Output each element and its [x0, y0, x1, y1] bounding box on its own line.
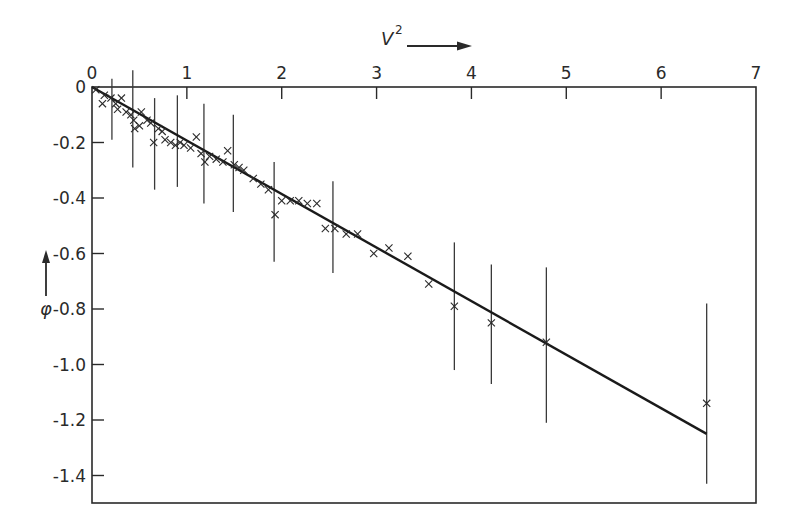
data-point-x-marker-icon: [201, 158, 208, 165]
y-tick-label: -0.2: [53, 133, 86, 153]
data-point-x-marker-icon: [155, 125, 162, 132]
x-tick-label: 3: [371, 63, 382, 83]
y-tick-label: -0.6: [53, 244, 86, 264]
y-tick-label: 0: [75, 77, 86, 97]
x-tick-label: 4: [466, 63, 477, 83]
data-point-x-marker-icon: [271, 211, 278, 218]
y-axis-ticks: 0-0.2-0.4-0.6-0.8-1.0-1.2-1.4: [53, 77, 104, 486]
x-axis-title: V 2: [381, 23, 472, 51]
data-point-x-marker-icon: [313, 200, 320, 207]
y-axis-title: φ: [40, 250, 52, 319]
y-tick-label: -0.8: [53, 299, 86, 319]
chart: 01234567 0-0.2-0.4-0.6-0.8-1.0-1.2-1.4 V…: [0, 0, 794, 526]
x-tick-label: 1: [181, 63, 192, 83]
y-tick-label: -1.2: [53, 410, 86, 430]
x-tick-label: 5: [561, 63, 572, 83]
x-axis-label-superscript: 2: [395, 23, 403, 37]
data-markers: [92, 86, 710, 407]
data-point-x-marker-icon: [159, 128, 166, 135]
data-point-x-marker-icon: [193, 133, 200, 140]
fit-line: [92, 87, 707, 434]
data-point-x-marker-icon: [99, 100, 106, 107]
data-point-x-marker-icon: [187, 144, 194, 151]
data-point-x-marker-icon: [150, 139, 157, 146]
y-axis-label: φ: [40, 298, 52, 319]
data-point-x-marker-icon: [118, 95, 125, 102]
x-tick-label: 0: [87, 63, 98, 83]
y-tick-label: -0.4: [53, 188, 86, 208]
data-point-x-marker-icon: [404, 253, 411, 260]
data-point-x-marker-icon: [385, 244, 392, 251]
data-point-x-marker-icon: [224, 147, 231, 154]
data-point-x-marker-icon: [180, 142, 187, 149]
x-tick-label: 7: [751, 63, 762, 83]
y-tick-label: -1.4: [53, 466, 86, 486]
x-tick-label: 6: [656, 63, 667, 83]
x-axis-label: V: [381, 28, 395, 49]
x-axis-ticks: 01234567: [87, 63, 762, 99]
data-point-x-marker-icon: [304, 200, 311, 207]
y-arrow-head-icon: [42, 250, 50, 263]
error-bars: [112, 70, 707, 483]
data-point-x-marker-icon: [278, 197, 285, 204]
x-arrow-head-icon: [457, 42, 472, 51]
data-point-x-marker-icon: [114, 106, 121, 113]
data-point-x-marker-icon: [425, 280, 432, 287]
x-tick-label: 2: [276, 63, 287, 83]
data-point-x-marker-icon: [370, 250, 377, 257]
regression-line: [92, 87, 707, 434]
data-point-x-marker-icon: [322, 225, 329, 232]
y-tick-label: -1.0: [53, 355, 86, 375]
